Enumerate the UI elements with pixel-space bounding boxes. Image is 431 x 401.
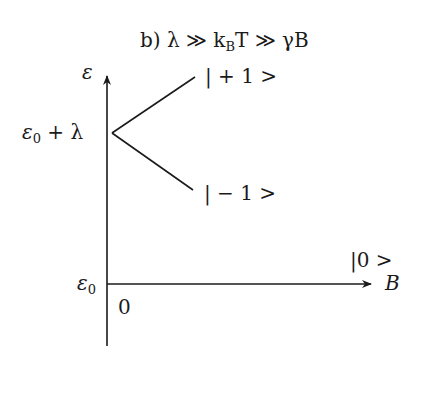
x-axis-label: B (385, 273, 400, 293)
ground-level-sub: 0 (88, 282, 96, 297)
minus-one-level-line (112, 133, 193, 190)
title-prefix: b) λ ≫ k (140, 28, 225, 52)
state-minus-one-label: | − 1 > (204, 183, 276, 203)
y-axis-label: ε (82, 62, 93, 82)
ground-level-base: ε (77, 271, 88, 295)
split-level-sub: 0 (33, 131, 41, 146)
title-sub: B (225, 39, 235, 54)
plus-one-level-line (112, 77, 195, 133)
state-plus-one-label: | + 1 > (205, 66, 277, 86)
split-level-suffix: + λ (41, 120, 83, 144)
origin-label: 0 (118, 297, 131, 317)
split-level-base: ε (22, 120, 33, 144)
state-zero-label: |0 > (350, 250, 393, 270)
diagram-title: b) λ ≫ kBT ≫ γB (140, 30, 309, 53)
title-suffix: T ≫ γB (235, 28, 309, 52)
ground-level-label: ε0 (77, 273, 96, 296)
split-level-label: ε0 + λ (22, 122, 83, 145)
